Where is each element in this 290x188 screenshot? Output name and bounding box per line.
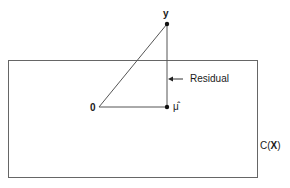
- label-column-space-suffix: ): [277, 140, 280, 151]
- residual-arrow-head-icon: [168, 77, 173, 82]
- vector-y-line: [99, 24, 167, 107]
- label-residual: Residual: [190, 74, 229, 84]
- diagram-canvas: [0, 0, 290, 188]
- point-mu-hat: [165, 105, 169, 109]
- label-column-space: C(X): [260, 141, 281, 151]
- label-column-space-prefix: C(: [260, 140, 271, 151]
- label-y: y: [163, 9, 169, 19]
- point-y: [165, 22, 169, 26]
- label-origin: 0: [90, 103, 96, 113]
- label-mu-hat: μ̂: [173, 102, 179, 112]
